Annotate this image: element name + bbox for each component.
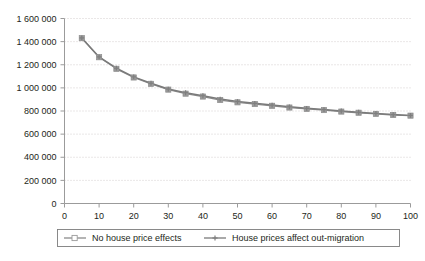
x-tick-label: 20 (129, 211, 139, 221)
x-tick-label: 50 (232, 211, 242, 221)
y-tick-label: 400 000 (24, 152, 57, 162)
x-tick-label: 10 (94, 211, 104, 221)
x-tick-label: 40 (198, 211, 208, 221)
legend-item-label: House prices affect out-migration (232, 233, 364, 243)
y-tick-label: 1 400 000 (16, 37, 56, 47)
x-tick-label: 30 (163, 211, 173, 221)
y-tick-label: 800 000 (24, 106, 57, 116)
chart-background (0, 0, 425, 261)
line-chart: 0200 000400 000600 000800 0001 000 0001 … (0, 0, 425, 261)
legend-marker-square (72, 235, 77, 240)
x-tick-label: 80 (336, 211, 346, 221)
y-tick-label: 1 600 000 (16, 14, 56, 24)
x-tick-label: 60 (267, 211, 277, 221)
chart-legend: No house price effectsHouse prices affec… (58, 230, 400, 247)
y-tick-label: 600 000 (24, 129, 57, 139)
legend-item-label: No house price effects (92, 233, 182, 243)
x-tick-label: 100 (403, 211, 418, 221)
x-tick-label: 70 (302, 211, 312, 221)
x-tick-label: 90 (371, 211, 381, 221)
y-tick-label: 1 200 000 (16, 60, 56, 70)
x-tick-label: 0 (62, 211, 67, 221)
y-tick-label: 0 (51, 199, 56, 209)
y-tick-label: 200 000 (24, 176, 57, 186)
y-tick-label: 1 000 000 (16, 83, 56, 93)
